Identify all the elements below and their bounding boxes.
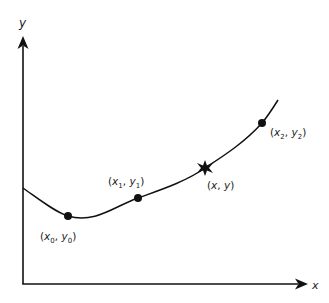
label-x2-y2: (x2, y2) [270, 126, 306, 141]
point-x0-y0-marker [64, 212, 72, 220]
point-x1-y1-marker [134, 194, 142, 202]
label-x0-y0: (x0, y0) [40, 230, 76, 245]
interpolated-curve [23, 100, 278, 218]
point-x2-y2-marker [258, 119, 266, 127]
x-axis-label: x [311, 279, 319, 292]
label-x1-y1: (x1, y1) [108, 175, 144, 190]
y-axis-label: y [18, 16, 27, 30]
x-axis: x [22, 279, 319, 293]
interpolation-diagram: y x (x0, y0) (x1, y1) (x, y) (x2, y2) [0, 0, 329, 303]
point-x-y-star-icon [197, 160, 213, 176]
label-x-y: (x, y) [207, 179, 234, 191]
y-axis: y [18, 16, 29, 284]
